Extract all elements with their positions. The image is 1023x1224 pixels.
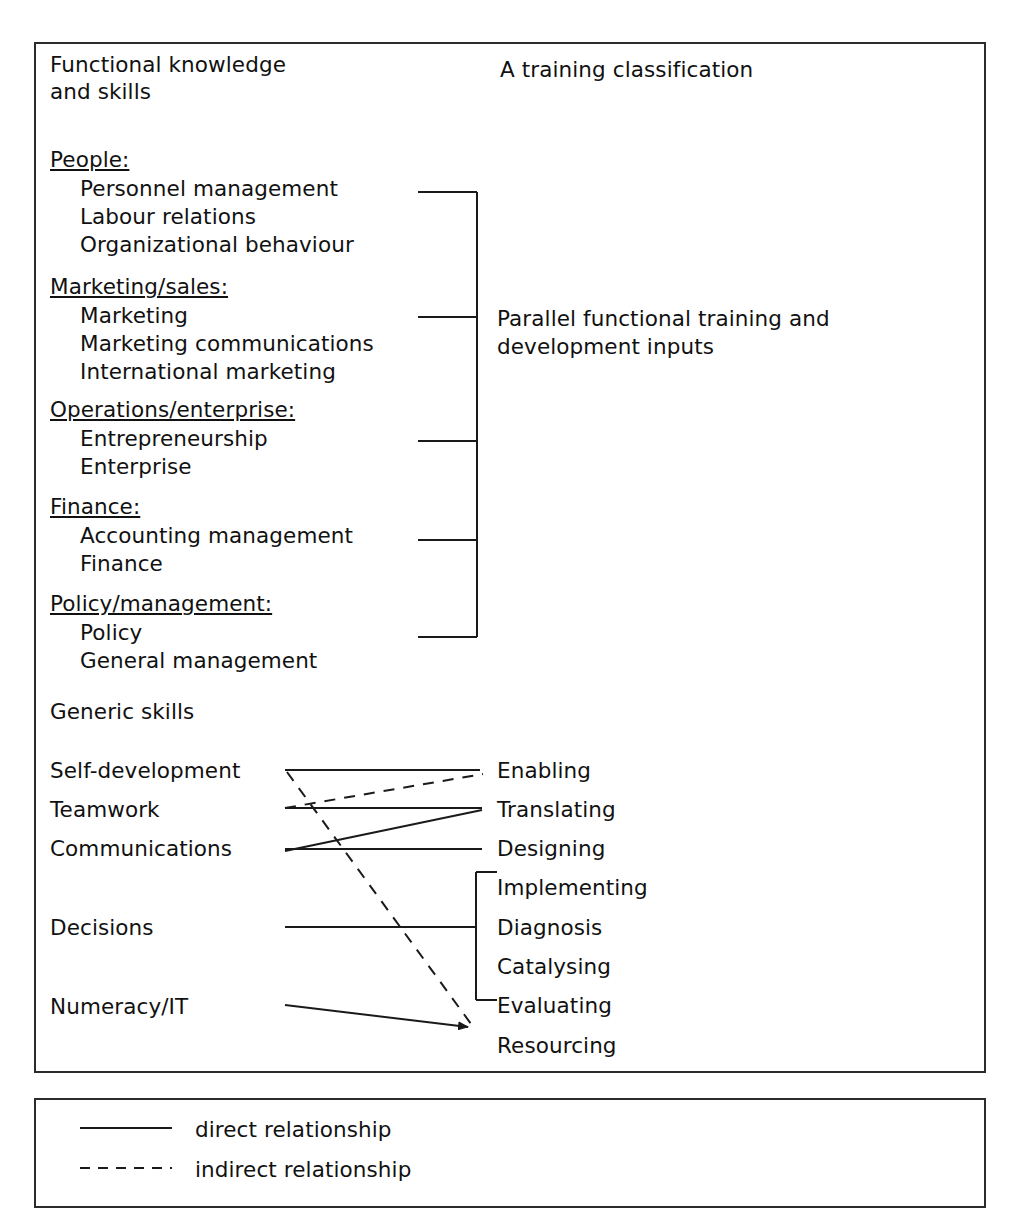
item-finance: Finance — [80, 551, 163, 577]
category-operations-enterprise: Operations/enterprise: — [50, 397, 295, 423]
item-labour-relations: Labour relations — [80, 204, 256, 230]
item-policy: Policy — [80, 620, 142, 646]
generic-right-translating: Translating — [497, 797, 616, 823]
bracket-note-line-2: development inputs — [497, 334, 714, 360]
generic-right-resourcing: Resourcing — [497, 1033, 617, 1059]
diagram-page: Functional knowledge and skills A traini… — [0, 0, 1023, 1224]
left-heading-line-2: and skills — [50, 79, 151, 105]
category-finance: Finance: — [50, 494, 140, 520]
item-entrepreneurship: Entrepreneurship — [80, 426, 268, 452]
generic-right-evaluating: Evaluating — [497, 993, 612, 1019]
generic-right-designing: Designing — [497, 836, 605, 862]
page-title: A training classification — [500, 57, 753, 83]
item-personnel-management: Personnel management — [80, 176, 338, 202]
generic-left-numeracy-it: Numeracy/IT — [50, 994, 188, 1020]
bracket-note-line-1: Parallel functional training and — [497, 306, 830, 332]
item-marketing-communications: Marketing communications — [80, 331, 374, 357]
generic-left-self-development: Self-development — [50, 758, 240, 784]
generic-right-catalysing: Catalysing — [497, 954, 611, 980]
left-heading-line-1: Functional knowledge — [50, 52, 286, 78]
category-people: People: — [50, 147, 129, 173]
item-marketing: Marketing — [80, 303, 188, 329]
legend-label-direct: direct relationship — [195, 1117, 392, 1143]
generic-left-teamwork: Teamwork — [50, 797, 160, 823]
generic-left-communications: Communications — [50, 836, 232, 862]
generic-right-implementing: Implementing — [497, 875, 648, 901]
item-international-marketing: International marketing — [80, 359, 336, 385]
generic-skills-heading: Generic skills — [50, 699, 194, 725]
item-organizational-behaviour: Organizational behaviour — [80, 232, 354, 258]
category-marketing-sales: Marketing/sales: — [50, 274, 228, 300]
item-general-management: General management — [80, 648, 317, 674]
item-accounting-management: Accounting management — [80, 523, 353, 549]
generic-right-diagnosis: Diagnosis — [497, 915, 602, 941]
legend-label-indirect: indirect relationship — [195, 1157, 411, 1183]
legend-frame — [34, 1098, 986, 1208]
generic-left-decisions: Decisions — [50, 915, 154, 941]
generic-right-enabling: Enabling — [497, 758, 591, 784]
category-policy-management: Policy/management: — [50, 591, 272, 617]
item-enterprise: Enterprise — [80, 454, 192, 480]
